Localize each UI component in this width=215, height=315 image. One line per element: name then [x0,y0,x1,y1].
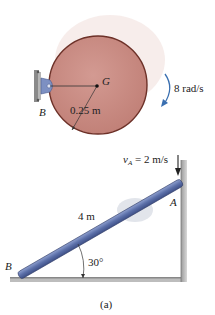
center-point-g [95,84,99,88]
floor [10,278,185,282]
angle-arc [78,244,84,278]
angular-velocity-label: 8 rad/s [174,82,204,94]
rod-end-a-label: A [169,196,177,208]
wall [181,160,187,282]
rod-length-label: 4 m [78,210,95,222]
angular-velocity-arrow-icon [161,74,170,107]
velocity-label: vA = 2 m/s [123,153,168,167]
velocity-arrow-icon [175,155,181,176]
center-label: G [102,75,110,87]
figure-caption: (a) [100,298,113,311]
disk-figure: G B 0.25 m 8 rad/s [34,15,204,134]
angle-label: 30° [88,256,103,268]
mechanics-figure: G B 0.25 m 8 rad/s vA = 2 m/s A B 4 m [0,0,215,315]
rod-end-b-label: B [5,260,12,272]
radius-label: 0.25 m [70,104,101,116]
rod-figure: vA = 2 m/s A B 4 m 30° [5,153,187,282]
pin-label: B [39,106,46,118]
